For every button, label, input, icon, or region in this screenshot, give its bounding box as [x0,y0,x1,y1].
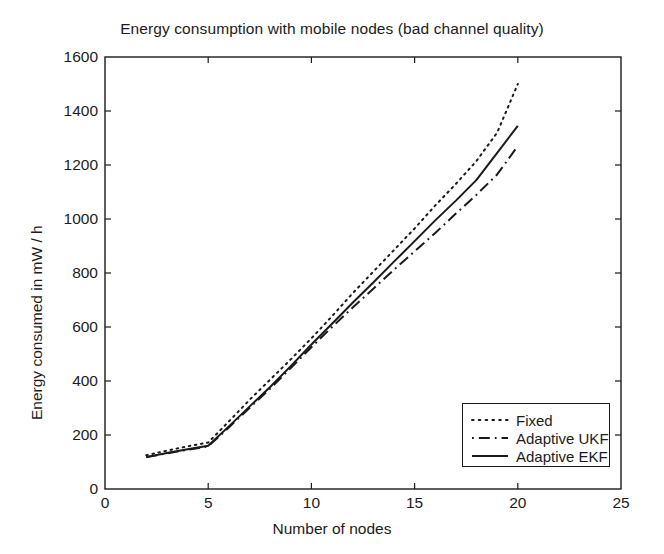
x-axis-label: Number of nodes [0,520,664,538]
y-tick-label: 1000 [42,210,98,228]
legend-item[interactable]: Adaptive UKF [471,428,609,448]
chart-title: Energy consumption with mobile nodes (ba… [0,20,664,38]
y-tick-label: 800 [42,264,98,282]
legend-line-sample-dotted [471,413,509,427]
x-tick-label: 10 [281,494,341,512]
y-tick-label: 400 [42,372,98,390]
y-tick-label: 200 [42,426,98,444]
legend: FixedAdaptive UKFAdaptive EKF [462,403,610,467]
y-axis-tick-labels: 02004006008001000120014001600 [42,0,98,554]
x-tick-label: 20 [488,494,548,512]
legend-label: Fixed [516,413,553,428]
y-tick-label: 1600 [42,48,98,66]
y-tick-label: 1200 [42,156,98,174]
legend-label: Adaptive EKF [516,449,608,464]
legend-item[interactable]: Fixed [471,410,553,430]
x-tick-label: 0 [75,494,135,512]
legend-item[interactable]: Adaptive EKF [471,446,608,466]
energy-consumption-chart: Energy consumption with mobile nodes (ba… [0,0,664,554]
plot-canvas [0,0,664,554]
y-tick-label: 600 [42,318,98,336]
series-line-fixed [146,84,518,455]
legend-line-sample-dash-dot [471,431,509,445]
y-tick-label: 1400 [42,102,98,120]
x-tick-label: 5 [178,494,238,512]
legend-line-sample-solid [471,449,509,463]
x-tick-label: 25 [591,494,651,512]
x-tick-label: 15 [385,494,445,512]
legend-label: Adaptive UKF [516,431,609,446]
